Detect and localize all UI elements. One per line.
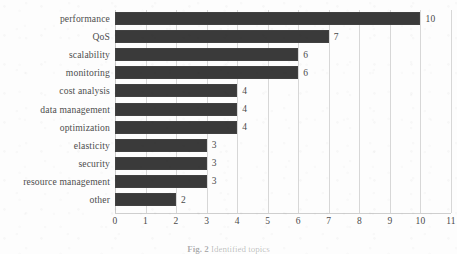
category-label: other [2,194,110,205]
plot-area: 107664443332 [115,10,451,213]
bar-value-label: 6 [303,49,308,59]
gridline-11 [451,10,452,213]
x-axis-tick-labels: 01234567891011 [115,216,451,230]
bar-row: 3 [115,139,451,152]
category-label: scalability [2,49,110,60]
figure-caption-label: Fig. 2 [187,244,209,254]
bar [115,66,298,79]
x-tick-label-8: 8 [357,216,362,226]
x-tick-label-11: 11 [446,216,456,226]
bar-row: 3 [115,175,451,188]
bar-row: 6 [115,48,451,61]
x-tick-label-10: 10 [416,216,426,226]
x-tick-label-7: 7 [326,216,331,226]
bar [115,12,420,25]
figure-caption: Fig. 2 Identified topics [0,243,457,254]
bar-value-label: 7 [334,31,339,41]
bar-value-label: 10 [425,13,435,23]
bar-row: 4 [115,103,451,116]
bar [115,30,329,43]
x-tick-label-6: 6 [296,216,301,226]
x-tick-label-4: 4 [235,216,240,226]
bar-row: 2 [115,193,451,206]
figure-caption-text: Identified topics [211,244,270,254]
bar [115,139,207,152]
bar-value-label: 4 [242,122,247,132]
category-label: performance [2,13,110,24]
x-axis-baseline [115,213,451,214]
bar-value-label: 2 [181,194,186,204]
category-label: security [2,158,110,169]
bar-row: 4 [115,121,451,134]
x-tick-label-2: 2 [174,216,179,226]
category-axis-labels: performanceQoSscalabilitymonitoringcost … [0,10,110,213]
x-tick-label-5: 5 [265,216,270,226]
bar-row: 10 [115,12,451,25]
category-label: resource management [2,176,110,187]
bar-row: 6 [115,66,451,79]
bar-row: 3 [115,157,451,170]
x-tick-label-1: 1 [143,216,148,226]
bar-value-label: 4 [242,104,247,114]
horizontal-bar-chart: performanceQoSscalabilitymonitoringcost … [0,0,457,254]
bar [115,175,207,188]
bar-row: 7 [115,30,451,43]
bar [115,121,237,134]
bar-value-label: 3 [212,176,217,186]
category-label: QoS [2,31,110,42]
bar [115,48,298,61]
bar-value-label: 6 [303,68,308,78]
bar-value-label: 3 [212,140,217,150]
bar-value-label: 4 [242,86,247,96]
category-label: data management [2,104,110,115]
bar-value-label: 3 [212,158,217,168]
bar [115,103,237,116]
bar [115,84,237,97]
bar [115,157,207,170]
category-label: cost analysis [2,85,110,96]
category-label: monitoring [2,67,110,78]
category-label: elasticity [2,140,110,151]
x-tick-label-0: 0 [113,216,118,226]
category-label: optimization [2,122,110,133]
x-tick-label-9: 9 [387,216,392,226]
bar [115,193,176,206]
x-tick-label-3: 3 [204,216,209,226]
bar-row: 4 [115,84,451,97]
